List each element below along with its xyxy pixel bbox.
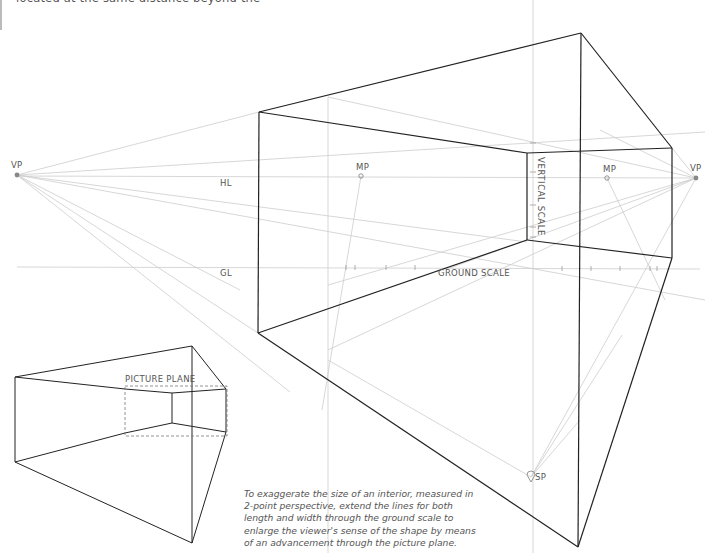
horizon-line — [17, 176, 696, 178]
picture-plane-dashed-rect — [125, 386, 227, 436]
caption-text: To exaggerate the size of an interior, m… — [244, 488, 484, 549]
gl-label: GL — [220, 268, 232, 278]
vp-left-label: VP — [11, 160, 23, 170]
ground-scale-label: GROUND SCALE — [438, 268, 510, 278]
mp-left-label: MP — [356, 162, 369, 172]
picture-plane-label: PICTURE PLANE — [125, 374, 195, 384]
construction-lines — [17, 0, 705, 553]
sp-label: SP — [535, 472, 546, 482]
perspective-diagram — [0, 0, 705, 553]
vp-left-point — [15, 173, 20, 178]
vp-right-label: VP — [690, 163, 702, 173]
mp-right-label: MP — [603, 164, 616, 174]
hl-label: HL — [220, 178, 232, 188]
vertical-scale-label: VERTICAL SCALE — [536, 157, 546, 236]
room-outline — [258, 33, 672, 547]
vp-right-point — [694, 176, 699, 181]
ground-line — [17, 267, 700, 269]
